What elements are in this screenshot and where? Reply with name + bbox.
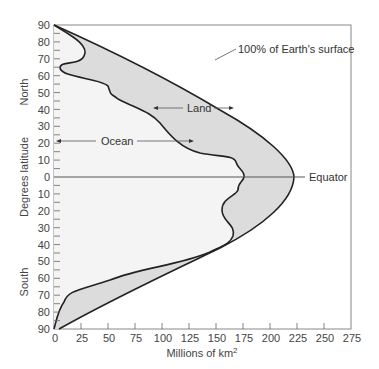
ocean-label: Ocean (101, 135, 133, 147)
x-tick-label: 175 (235, 332, 253, 344)
y-tick-label: 0 (44, 171, 50, 183)
y-tick-label: 80 (38, 306, 50, 318)
y-tick-label: 50 (38, 87, 50, 99)
y-tick-label: 10 (38, 188, 50, 200)
y-tick-label: 60 (38, 272, 50, 284)
y-tick-label: 40 (38, 239, 50, 251)
y-tick-label: 40 (38, 104, 50, 116)
equator-label: Equator (309, 171, 348, 183)
x-tick-label: 50 (103, 332, 115, 344)
x-tick-label: 75 (130, 332, 142, 344)
y-axis-title: Degrees latitude (18, 137, 30, 217)
y-tick-label: 90 (38, 323, 50, 335)
x-axis-labels: 0 25 50 75 100 125 150 175 200 225 250 2… (52, 332, 361, 344)
x-tick-label: 25 (76, 332, 88, 344)
x-tick-label: 250 (316, 332, 334, 344)
x-tick-label: 150 (208, 332, 226, 344)
y-axis-north-label: North (18, 79, 30, 106)
x-axis-title-text: Millions of km (166, 347, 233, 359)
x-tick-label: 225 (289, 332, 307, 344)
y-tick-label: 90 (38, 19, 50, 31)
y-tick-label: 30 (38, 120, 50, 132)
y-tick-label: 70 (38, 53, 50, 65)
total-surface-label: 100% of Earth's surface (238, 43, 354, 55)
x-axis-title-superscript: 2 (233, 346, 238, 355)
y-axis-labels-south: 10 20 30 40 50 60 70 80 90 (38, 188, 50, 335)
x-tick-label: 125 (181, 332, 199, 344)
y-tick-label: 20 (38, 205, 50, 217)
x-tick-label: 200 (262, 332, 280, 344)
y-axis-south-label: South (18, 268, 30, 297)
y-tick-label: 60 (38, 70, 50, 82)
y-tick-label: 50 (38, 255, 50, 267)
y-tick-label: 70 (38, 289, 50, 301)
x-axis-title: Millions of km2 (166, 346, 238, 359)
y-axis-labels-north: 90 80 70 60 50 40 30 20 10 0 (38, 19, 50, 183)
y-tick-label: 20 (38, 137, 50, 149)
land-label: Land (187, 102, 211, 114)
y-tick-label: 10 (38, 154, 50, 166)
x-tick-label: 275 (343, 332, 361, 344)
latitude-area-chart: Equator 100% of Earth's surface Land Oce… (0, 0, 379, 369)
x-tick-label: 100 (154, 332, 172, 344)
y-tick-label: 80 (38, 36, 50, 48)
y-tick-label: 30 (38, 222, 50, 234)
x-tick-label: 0 (52, 332, 58, 344)
